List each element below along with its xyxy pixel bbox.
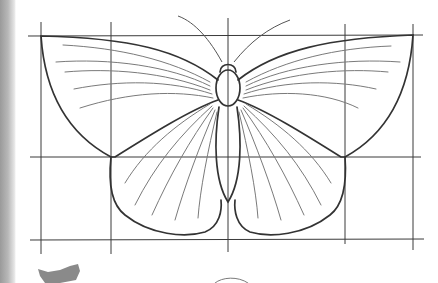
wing-vein bbox=[244, 83, 376, 94]
forewings bbox=[41, 35, 413, 157]
next-drawing-fragments bbox=[38, 264, 248, 283]
wing-vein bbox=[241, 110, 281, 220]
antennae bbox=[178, 16, 290, 62]
construction-grid bbox=[28, 18, 424, 254]
wing-vein bbox=[74, 83, 212, 94]
wing-vein bbox=[80, 93, 213, 108]
curve-sketch-fragment bbox=[215, 278, 248, 283]
bird-sketch-fragment bbox=[38, 264, 80, 283]
butterfly-sketch bbox=[0, 0, 438, 283]
wing-vein bbox=[243, 93, 358, 108]
grid-horizontal-top bbox=[28, 35, 423, 36]
grid-horizontal-bottom bbox=[30, 239, 424, 240]
wing-vein bbox=[175, 110, 215, 220]
antenna-left bbox=[178, 16, 222, 62]
